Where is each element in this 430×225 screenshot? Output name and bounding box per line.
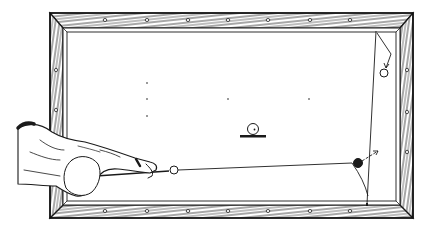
diamond-marker [103, 210, 107, 213]
ball-marker-dot [254, 129, 256, 131]
diamond-marker [266, 210, 270, 213]
cushion [63, 28, 400, 205]
diamond-marker [226, 210, 230, 213]
table-drawing [0, 0, 430, 225]
object-ball-black [354, 159, 363, 168]
diamond-marker [226, 19, 230, 22]
diamond-marker [348, 210, 352, 213]
diamond-marker [103, 19, 107, 22]
table-spot [146, 98, 148, 100]
diamond-marker [186, 210, 190, 213]
diamond-marker [308, 19, 312, 22]
diamond-marker [348, 19, 352, 22]
diamond-marker [186, 19, 190, 22]
diamond-marker [266, 19, 270, 22]
table-spot [308, 98, 310, 100]
diamond-marker [55, 108, 58, 112]
object-ball-corner [380, 69, 388, 77]
legend-ball-on-base [248, 124, 259, 135]
cue-ball [170, 166, 178, 174]
diamond-marker [145, 210, 149, 213]
diamond-marker [406, 68, 409, 72]
table-spot [146, 115, 148, 117]
billiards-illustration: Billiards table shot illustration [0, 0, 430, 225]
ball-base [240, 135, 266, 138]
rail-contact-mark [366, 203, 368, 206]
diamond-marker [406, 110, 409, 114]
diamond-marker [308, 210, 312, 213]
right-rail [400, 13, 413, 218]
diamond-marker [145, 19, 149, 22]
table-spot [227, 98, 229, 100]
diamond-marker [55, 68, 58, 72]
table-spot [146, 82, 148, 84]
diamond-marker [406, 150, 409, 154]
